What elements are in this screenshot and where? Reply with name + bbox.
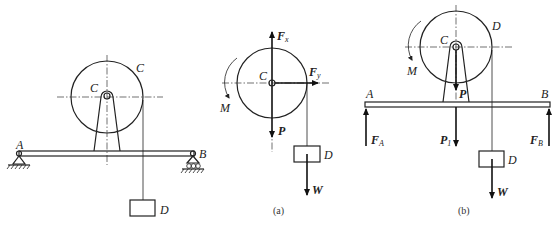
label-moment-m: M	[406, 64, 418, 78]
label-a: A	[365, 87, 374, 101]
label-center-c: C	[440, 33, 449, 47]
label-moment-m: M	[219, 101, 231, 115]
caption-b: (b)	[458, 205, 470, 217]
label-p1: P1	[440, 133, 451, 148]
caption-a: (a)	[273, 205, 284, 217]
label-fy: Fy	[308, 65, 321, 80]
label-fx: Fx	[276, 29, 289, 44]
label-center-c: C	[259, 69, 268, 83]
label-center-c: C	[90, 81, 99, 95]
label-fa: FA	[370, 133, 384, 148]
label-b: B	[199, 147, 207, 161]
label-w: W	[497, 185, 509, 199]
label-b: B	[541, 87, 549, 101]
figure-a: Fx Fy C M P D W (a)	[219, 29, 333, 217]
beam	[365, 102, 550, 107]
label-wheel-c: C	[136, 61, 145, 75]
weight-block-d	[130, 200, 155, 216]
moment-m-arrow	[225, 58, 237, 98]
label-d-rim: D	[491, 19, 501, 33]
label-p: P	[278, 124, 286, 138]
label-d: D	[159, 203, 169, 217]
label-p: P	[459, 87, 467, 101]
label-d-block: D	[507, 153, 517, 167]
main-figure: C C A B D	[7, 55, 207, 217]
label-d: D	[323, 148, 333, 162]
label-fb: FB	[529, 133, 543, 148]
figure-b: D C M P A B FA FB P1 D W (b)	[365, 5, 550, 217]
label-w: W	[312, 183, 324, 197]
label-a: A	[15, 138, 24, 152]
beam	[19, 151, 194, 156]
moment-m-arrow	[408, 21, 421, 60]
